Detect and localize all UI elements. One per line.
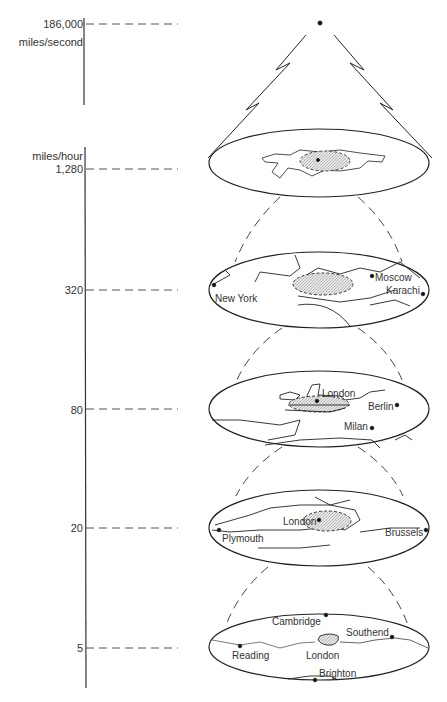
city-london-80: London [322,388,355,399]
city-milan: Milan [344,421,368,432]
map-western-europe [209,371,429,448]
city-southend: Southend [346,627,389,638]
city-london-20: London [283,516,316,527]
speed-axis [84,18,86,688]
city-cambridge: Cambridge [272,616,321,627]
city-moscow: Moscow [375,272,412,283]
city-reading: Reading [232,650,269,661]
city-london-5: London [306,650,339,661]
city-new-york: New York [215,293,257,304]
city-plymouth: Plymouth [222,533,264,544]
city-brighton: Brighton [319,668,356,679]
tick-dashes [86,24,178,648]
speed-map-diagram [0,0,447,702]
city-berlin: Berlin [368,401,394,412]
light-cone [208,21,432,158]
map-world [209,129,429,197]
city-brussels: Brussels [385,527,423,538]
city-karachi: Karachi [386,285,420,296]
